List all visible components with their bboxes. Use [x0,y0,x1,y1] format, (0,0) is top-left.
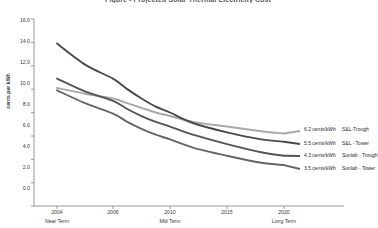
legend-name-sunlab-trough: Sunlab - Trough [342,152,378,158]
series-line-sunlab-trough [57,79,284,156]
y-tick-marks [31,19,34,206]
legend-swatch-sl-trough [284,131,300,134]
x-phase-label-near-term: Near Term [32,218,82,224]
legend-value-sl-tower: 5.5 cents/kWh [304,140,336,146]
legend-value-sunlab-tower: 3.5 cents/kWh [304,165,336,171]
legend-name-sl-trough: S&L-Trough [342,126,369,132]
legend-swatch-sunlab-tower [284,165,300,169]
legend-name-sl-tower: S&L - Tower [342,140,369,146]
x-phase-label-long-term: Long Term [259,218,309,224]
x-tick-label-2020: 2020 [264,209,304,215]
legend-value-sl-trough: 6.2 cents/kWh [304,126,336,132]
legend-name-sunlab-tower: Sunlab - Tower [342,165,375,171]
x-tick-label-2004: 2004 [37,209,77,215]
x-tick-label-2006: 2006 [93,209,133,215]
x-tick-label-2010: 2010 [150,209,190,215]
legend-swatch-sl-tower [284,142,300,144]
x-tick-label-2015: 2015 [207,209,247,215]
legend-value-sunlab-trough: 4.3 cents/kWh [304,152,336,158]
x-phase-label-mid-term: Mid Term [145,218,195,224]
